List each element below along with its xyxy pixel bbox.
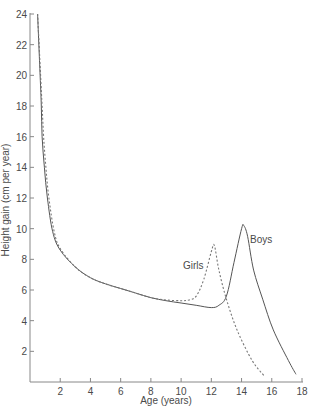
y-tick-label: 4 [21,316,27,327]
y-tick-label: 18 [16,101,28,112]
series-line-girls [38,14,265,376]
x-axis-title: Age (years) [140,395,192,406]
x-tick-label: 16 [266,386,278,397]
series-lines [38,14,296,376]
y-tick-label: 8 [21,254,27,265]
x-tick-label: 14 [236,386,248,397]
series-label-girls: Girls [183,260,204,271]
y-tick-label: 22 [16,40,28,51]
growth-velocity-chart: 2468101214161824681012141618202224 Age (… [0,0,312,410]
x-tick-label: 6 [118,386,124,397]
y-tick-label: 24 [16,9,28,20]
x-tick-label: 12 [206,386,218,397]
y-tick-label: 16 [16,132,28,143]
tick-marks: 2468101214161824681012141618202224 [16,9,308,397]
x-tick-label: 18 [296,386,308,397]
y-tick-label: 20 [16,70,28,81]
y-axis-title: Height gain (cm per year) [0,144,11,257]
series-line-boys [38,14,296,374]
y-tick-label: 10 [16,224,28,235]
y-tick-label: 12 [16,193,28,204]
y-tick-label: 2 [21,346,27,357]
series-label-boys: Boys [250,234,272,245]
y-tick-label: 6 [21,285,27,296]
axes [30,13,303,382]
x-tick-label: 2 [57,386,63,397]
y-tick-label: 14 [16,162,28,173]
x-tick-label: 4 [88,386,94,397]
